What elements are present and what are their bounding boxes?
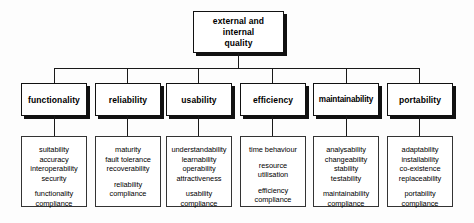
subcharacteristics-list-usability: understandability learnability operabili… [167, 145, 231, 209]
subcharacteristics-list-reliability: maturity fault tolerance recoverability … [96, 145, 160, 199]
compliance-group-reliability: reliability compliance [96, 180, 160, 199]
characteristic-label-maintainability: maintainability [319, 95, 373, 104]
subcharacteristics-node-reliability[interactable]: maturity fault tolerance recoverability … [95, 136, 161, 207]
connector-drop-reliability [127, 68, 128, 83]
connector-maintainability-to-subs [346, 116, 347, 136]
connector-drop-efficiency [272, 68, 273, 83]
connector-drop-usability [198, 68, 199, 83]
subcharacteristics-node-maintainability[interactable]: analysability changeability stability te… [313, 136, 379, 207]
characteristic-label-usability: usability [181, 95, 216, 105]
characteristic-label-functionality: functionality [28, 95, 80, 105]
root-node-external-and-internal-quality[interactable]: external and internal quality [193, 11, 284, 53]
subcharacteristics-list-portability: adaptability installability co-existence… [388, 145, 452, 209]
quality-model-diagram: external and internal quality functional… [0, 0, 474, 223]
connector-drop-maintainability [346, 68, 347, 83]
compliance-group-portability: portability compliance [388, 189, 452, 208]
compliance-group-maintainability: maintainability compliance [314, 189, 378, 208]
compliance-group-usability: usability compliance [167, 189, 231, 208]
characteristic-label-portability: portability [399, 95, 441, 105]
connector-reliability-to-subs [127, 116, 128, 136]
characteristic-node-functionality[interactable]: functionality [21, 83, 87, 116]
characteristic-node-efficiency[interactable]: efficiency [240, 83, 306, 116]
subcharacteristics-list-functionality: suitability accuracy interoperability se… [22, 145, 86, 209]
connector-usability-to-subs [198, 116, 199, 136]
root-node-label: external and internal quality [213, 16, 264, 49]
subcharacteristics-node-functionality[interactable]: suitability accuracy interoperability se… [21, 136, 87, 207]
connector-drop-portability [419, 68, 420, 83]
characteristic-node-usability[interactable]: usability [166, 83, 232, 116]
characteristic-node-portability[interactable]: portability [387, 83, 453, 116]
characteristic-node-reliability[interactable]: reliability [95, 83, 161, 116]
subcharacteristics-node-efficiency[interactable]: time behaviour resource utilisation effi… [240, 136, 306, 207]
subcharacteristics-node-portability[interactable]: adaptability installability co-existence… [387, 136, 453, 207]
characteristic-label-reliability: reliability [109, 95, 147, 105]
compliance-group-efficiency: efficiency compliance [241, 186, 305, 205]
compliance-group-functionality: functionality compliance [22, 189, 86, 208]
subcharacteristics-list-maintainability: analysability changeability stability te… [314, 145, 378, 209]
connector-portability-to-subs [419, 116, 420, 136]
connector-functionality-to-subs [54, 116, 55, 136]
characteristic-label-efficiency: efficiency [253, 95, 293, 105]
subcharacteristics-list-efficiency: time behaviour resource utilisation effi… [241, 145, 305, 205]
connector-efficiency-to-subs [272, 116, 273, 136]
connector-drop-functionality [54, 68, 55, 83]
characteristic-node-maintainability[interactable]: maintainability [313, 83, 379, 116]
subcharacteristics-node-usability[interactable]: understandability learnability operabili… [166, 136, 232, 207]
connector-horizontal-bus [54, 68, 419, 69]
connector-root-stem [238, 53, 239, 68]
